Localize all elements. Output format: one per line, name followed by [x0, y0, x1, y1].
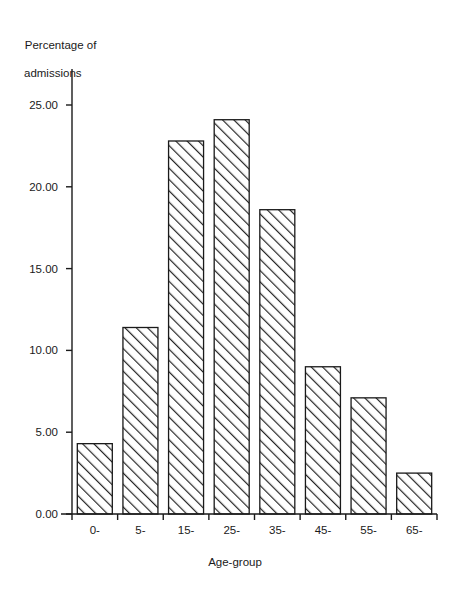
y-axis-tick-label: 25.00 [4, 99, 58, 111]
bar-series [77, 120, 431, 514]
y-axis-tick-label: 15.00 [4, 263, 58, 275]
x-axis-tick-label: 35- [257, 524, 297, 536]
x-axis-tick-label: 65- [394, 524, 434, 536]
bar [260, 210, 295, 514]
y-axis-tick-label: 5.00 [4, 426, 58, 438]
bar [169, 141, 204, 514]
bar [397, 473, 432, 514]
y-axis-tick-label: 10.00 [4, 344, 58, 356]
plot-area [0, 0, 470, 595]
bar [351, 398, 386, 514]
x-axis-title: Age-group [0, 556, 470, 568]
x-axis-tick-label: 5- [120, 524, 160, 536]
bar [305, 367, 340, 514]
bar [214, 120, 249, 514]
y-axis-tick-label: 20.00 [4, 181, 58, 193]
bar [123, 327, 158, 514]
x-axis-tick-label: 45- [303, 524, 343, 536]
x-axis-tick-label: 0- [75, 524, 115, 536]
bar-chart: Percentage of admissions 0.005.0010.0015… [0, 0, 470, 595]
x-axis-tick-label: 15- [166, 524, 206, 536]
x-axis-tick-label: 25- [212, 524, 252, 536]
y-axis-tick-label: 0.00 [4, 508, 58, 520]
x-axis-tick-label: 55- [349, 524, 389, 536]
bar [77, 444, 112, 514]
